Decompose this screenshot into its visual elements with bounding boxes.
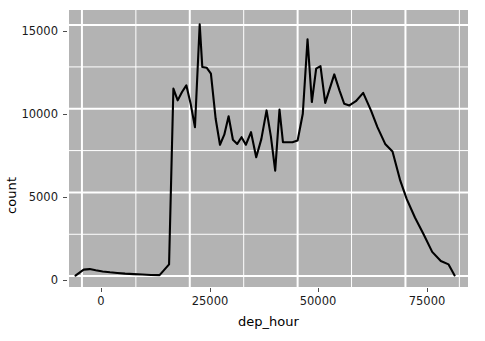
x-tick-mark-75000 (427, 288, 428, 292)
y-tick-mark-10000 (63, 114, 67, 115)
plot-svg (69, 10, 468, 287)
data-line-count (75, 24, 454, 275)
x-tick-mark-50000 (318, 288, 319, 292)
x-tick-mark-25000 (210, 288, 211, 292)
grid-major-lines (69, 10, 468, 287)
x-tick-mark-0 (101, 288, 102, 292)
y-axis-title: count (0, 0, 22, 341)
x-tick-label-50000: 50000 (300, 294, 337, 308)
y-tick-label-0: 0 (10, 273, 58, 287)
x-tick-label-75000: 75000 (409, 294, 446, 308)
x-tick-label-0: 0 (97, 294, 104, 308)
chart-container: count 15000 10000 5000 0 0 25000 50000 7… (0, 0, 485, 341)
y-tick-mark-15000 (63, 31, 67, 32)
plot-panel (69, 10, 468, 287)
x-tick-label-25000: 25000 (192, 294, 229, 308)
y-tick-label-10000: 10000 (10, 107, 58, 121)
x-axis-title: dep_hour (69, 314, 468, 329)
y-tick-mark-5000 (63, 197, 67, 198)
grid-minor-lines (69, 10, 468, 287)
y-tick-mark-0 (63, 280, 67, 281)
y-tick-label-5000: 5000 (10, 190, 58, 204)
y-tick-label-15000: 15000 (10, 24, 58, 38)
